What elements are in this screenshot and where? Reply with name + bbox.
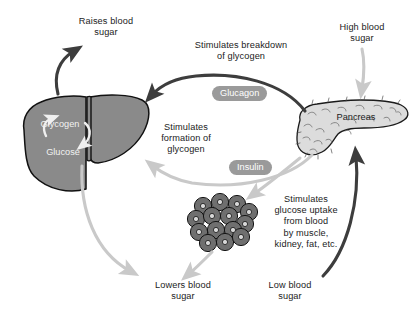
pancreas-organ	[296, 96, 408, 159]
arrow-liver-to-lowers-blood-sugar	[82, 166, 130, 271]
label-stimulates-formation-of-glycogen: Stimulates formation of glycogen	[146, 122, 226, 156]
label-lowers-blood-sugar: Lowers blood sugar	[133, 280, 233, 302]
body-cells-cluster	[187, 193, 257, 251]
hormone-pill-insulin: Insulin	[229, 160, 272, 175]
label-stimulates-breakdown-of-glycogen: Stimulates breakdown of glycogen	[182, 40, 300, 62]
arrow-liver-to-raises-blood-sugar	[56, 51, 74, 94]
diagram-canvas: Raises blood sugar High blood sugar Stim…	[0, 0, 416, 314]
label-raises-blood-sugar: Raises blood sugar	[56, 16, 156, 38]
label-low-blood-sugar: Low blood sugar	[240, 280, 340, 302]
hormone-pill-glucagon: Glucagon	[212, 86, 267, 101]
label-stimulates-glucose-uptake: Stimulates glucose uptake from blood by …	[255, 194, 357, 250]
liver-label-glycogen: Glycogen	[27, 119, 93, 130]
liver-label-glucose: Glucose	[30, 147, 96, 158]
organ-label-pancreas: Pancreas	[320, 112, 392, 123]
label-high-blood-sugar: High blood sugar	[312, 22, 412, 44]
arrow-high-blood-sugar-to-pancreas	[362, 49, 364, 89]
arrow-cells-to-lowers-blood-sugar	[189, 252, 212, 274]
